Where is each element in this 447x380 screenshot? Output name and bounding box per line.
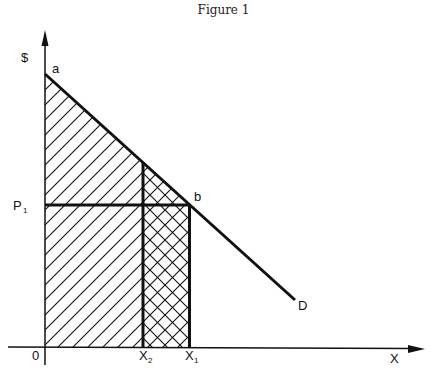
- point-a-label: a: [52, 61, 60, 76]
- price-p1-label: P: [13, 198, 22, 213]
- crosshatch-area: [140, 150, 195, 350]
- consumer-area-hatch: [40, 70, 150, 350]
- x-axis-label: X: [390, 351, 399, 366]
- quantity-x1-label: X: [185, 348, 194, 363]
- price-p1-subscript: 1: [23, 206, 28, 215]
- demand-label: D: [298, 298, 307, 313]
- quantity-x1-subscript: 1: [194, 356, 199, 365]
- quantity-x2-label: X: [139, 348, 148, 363]
- y-axis-arrow-icon: [42, 30, 49, 46]
- y-axis-label: $: [21, 50, 29, 65]
- point-b-label: b: [194, 189, 201, 204]
- quantity-x2-subscript: 2: [148, 356, 153, 365]
- demand-diagram: $ a b D P 1 0 X 2 X 1 X: [0, 0, 447, 380]
- x-axis-arrow-icon: [408, 345, 425, 353]
- origin-label: 0: [32, 348, 39, 363]
- x-axis: [8, 347, 412, 349]
